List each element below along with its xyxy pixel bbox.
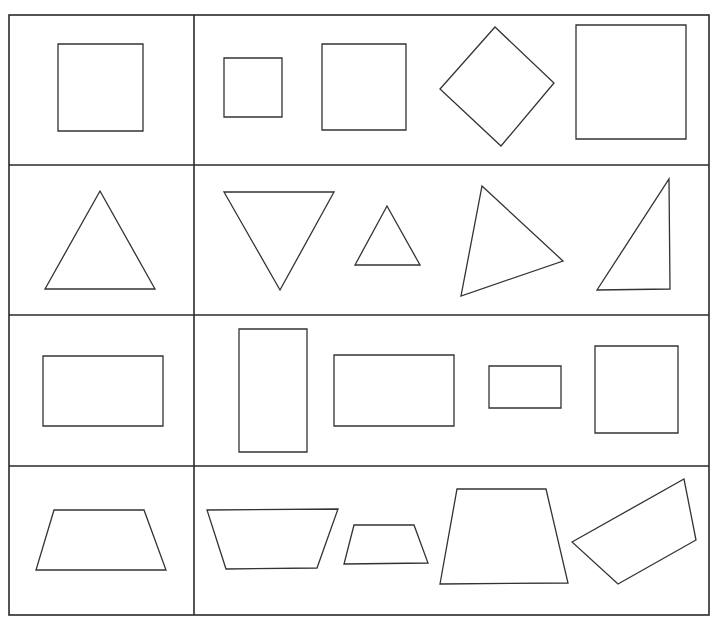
option-2-small-triangle[interactable] (355, 206, 420, 265)
option-4-rotated-quadrilateral[interactable] (572, 479, 696, 584)
option-3-tall-trapezoid[interactable] (440, 489, 568, 584)
reference-equilateral-triangle (45, 191, 155, 289)
option-4-right-triangle[interactable] (597, 179, 670, 290)
shape-layer (36, 25, 696, 584)
row-trapezoid (36, 479, 696, 584)
row-triangle (45, 179, 670, 296)
option-1-inverted-trapezoid[interactable] (207, 509, 338, 569)
option-4-square-like[interactable] (595, 346, 678, 433)
shape-matching-worksheet (0, 0, 716, 621)
option-2-square[interactable] (322, 44, 406, 130)
option-2-small-trapezoid[interactable] (344, 525, 428, 564)
row-rectangle (43, 329, 678, 452)
option-4-large-square[interactable] (576, 25, 686, 139)
option-3-rotated-square[interactable] (440, 27, 554, 146)
option-1-small-square[interactable] (224, 58, 282, 117)
reference-rectangle (43, 356, 163, 426)
option-2-rectangle[interactable] (334, 355, 454, 426)
reference-trapezoid (36, 510, 166, 570)
row-square (58, 25, 686, 146)
option-1-inverted-triangle[interactable] (224, 192, 334, 290)
reference-square (58, 44, 143, 131)
option-1-tall-rectangle[interactable] (239, 329, 307, 452)
option-3-scalene-triangle[interactable] (461, 186, 563, 296)
option-3-small-rectangle[interactable] (489, 366, 561, 408)
